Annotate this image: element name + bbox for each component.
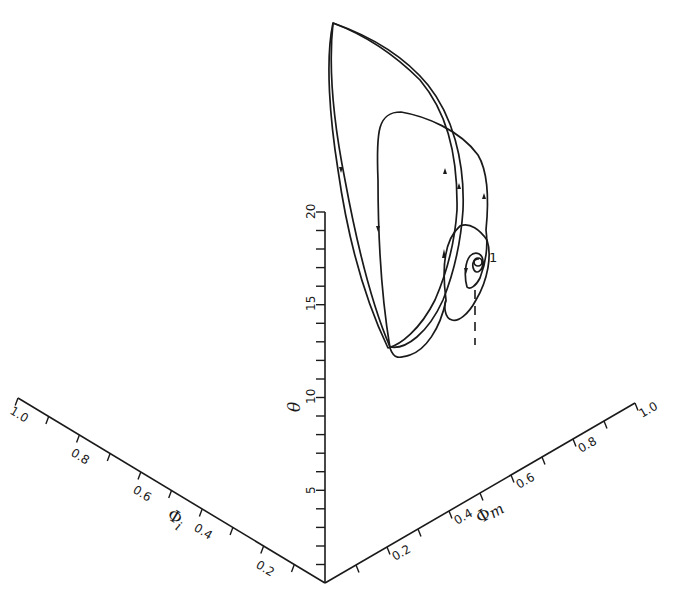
phi-m-tick-0.6: 0.6 (514, 470, 538, 492)
trajectory: 1 (329, 23, 497, 357)
phi-m-axis: 0.2 0.4 0.6 0.8 1.0 Φ m (325, 399, 660, 583)
phi-m-axis-label: Φ m (472, 496, 507, 529)
svg-text:Φ: Φ (164, 504, 186, 528)
phi-m-tick-1.0: 1.0 (637, 399, 661, 421)
arrow-up-icon (457, 183, 461, 189)
phi-i-tick-0.8: 0.8 (68, 446, 92, 468)
phi-i-axis: 0.2 0.4 0.6 0.8 1.0 Φ i (7, 398, 325, 583)
phi-i-tick-0.6: 0.6 (130, 483, 154, 505)
phi-m-tick-0.8: 0.8 (576, 434, 600, 456)
phi-m-tick-0.2: 0.2 (390, 542, 414, 564)
theta-tick-20: 20 (304, 204, 318, 219)
arrow-up-icon (482, 193, 486, 199)
phi-m-tick-0.4: 0.4 (452, 506, 476, 528)
phi-i-axis-label: Φ i (162, 504, 189, 533)
theta-tick-15: 15 (304, 296, 318, 311)
theta-axis: 5 10 15 20 θ (284, 204, 325, 583)
theta-tick-5: 5 (304, 486, 318, 494)
phase-plot: 5 10 15 20 θ 0.2 0.4 0.6 0.8 1.0 Φ i (0, 0, 675, 595)
phi-i-tick-1.0: 1.0 (7, 404, 31, 426)
phi-i-tick-0.4: 0.4 (191, 521, 215, 543)
arrow-up-icon (443, 168, 447, 174)
theta-tick-10: 10 (304, 389, 318, 404)
phi-i-tick-0.2: 0.2 (253, 558, 277, 580)
fixed-point-label: 1 (489, 250, 497, 265)
theta-axis-label: θ (284, 402, 304, 412)
